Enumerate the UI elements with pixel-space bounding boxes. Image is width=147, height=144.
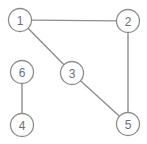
node-layer: 123456: [9, 9, 140, 137]
graph-node-6[interactable]: 6: [11, 61, 34, 84]
graph-node-4[interactable]: 4: [11, 114, 34, 137]
graph-edge-1-3: [28, 28, 64, 65]
graph-edge-3-5: [81, 81, 120, 117]
graph-svg-surface: 123456: [0, 0, 147, 144]
node-label-2: 2: [125, 15, 132, 29]
node-label-5: 5: [125, 118, 132, 132]
node-label-4: 4: [19, 119, 26, 133]
graph-node-1[interactable]: 1: [9, 9, 32, 32]
graph-diagram: 123456: [0, 0, 147, 144]
graph-node-2[interactable]: 2: [117, 10, 140, 33]
node-label-3: 3: [69, 67, 76, 81]
graph-node-5[interactable]: 5: [117, 113, 140, 136]
graph-node-3[interactable]: 3: [61, 62, 84, 85]
node-label-6: 6: [19, 66, 26, 80]
node-label-1: 1: [17, 14, 24, 28]
graph-edge-1-2: [32, 20, 117, 21]
